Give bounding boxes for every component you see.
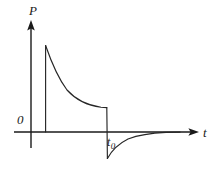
origin-label: 0	[17, 113, 24, 126]
pressure-vs-time-figure: P t 0 t0	[0, 0, 217, 172]
x-axis-label: t	[203, 126, 207, 139]
curve-falling-edge	[107, 108, 108, 159]
event-time-symbol: t	[107, 135, 110, 149]
y-axis-label: P	[29, 4, 37, 17]
curve-decay-segment	[46, 46, 107, 108]
y-axis	[27, 20, 35, 148]
event-time-subscript: 0	[111, 141, 116, 151]
event-time-label: t0	[107, 136, 115, 151]
curve-recovery-segment	[107, 132, 180, 158]
